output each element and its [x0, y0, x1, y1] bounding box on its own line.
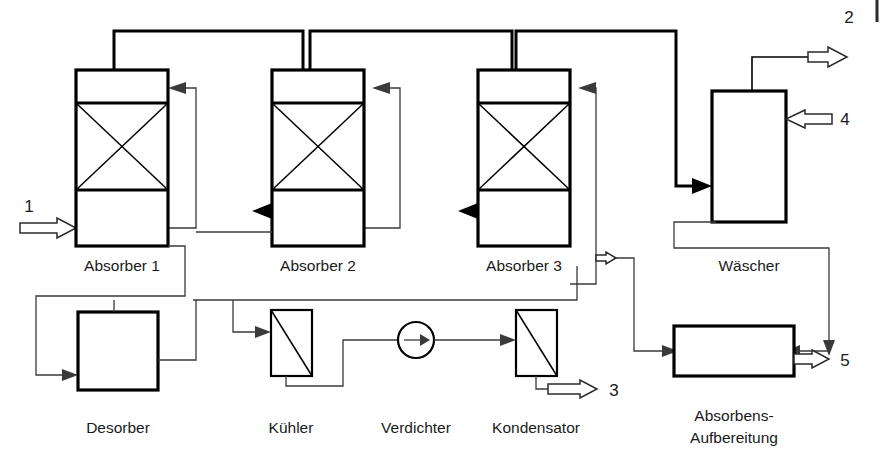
- label-kondensator: Kondensator: [492, 419, 580, 436]
- equipment-verdichter: [398, 322, 434, 358]
- arrowhead-absorber3-head: [578, 82, 596, 94]
- pipe-kuehler-to-verdichter: [286, 340, 398, 386]
- label-verdichter: Verdichter: [381, 419, 451, 436]
- equipment-kondensator: [516, 310, 557, 376]
- stream-number-2: 2: [844, 8, 853, 27]
- equipment-desorber: [78, 312, 158, 390]
- arrowhead-absorber2-head: [372, 82, 390, 94]
- equipment-waescher: [712, 91, 786, 222]
- pipe-absorber1-liquid-loop: [168, 82, 196, 228]
- pipe-kondensator-to-stream3: [536, 376, 597, 398]
- pipe-absorber3-bottom-to-absorbens: [596, 252, 678, 357]
- arrowhead-absorber2-inlet: [252, 203, 272, 219]
- arrowhead-kondensator-inlet: [500, 334, 516, 346]
- equipment-absorber3: [478, 70, 570, 246]
- stream-4-inlet-arrow: [786, 110, 832, 128]
- process-flow-diagram: Absorber 1 Absorber 2 Absorber 3 Wäscher…: [0, 0, 887, 464]
- arrowhead-kuehler-inlet: [255, 326, 271, 338]
- stream-number-1: 1: [24, 197, 33, 216]
- arrowhead-absorber1-head: [168, 82, 186, 94]
- equipment-kuehler: [271, 310, 312, 376]
- label-absorber1: Absorber 1: [84, 257, 160, 274]
- pipe-waescher-top-to-stream2: [752, 47, 847, 91]
- equipment-absorber1: [76, 70, 168, 246]
- stream-tap-arrow-absorber3: [596, 252, 616, 264]
- compressor-direction-arrow: [420, 334, 430, 346]
- arrowhead-absorber3-inlet: [458, 203, 478, 219]
- label-absorbens-line2: Aufbereitung: [690, 429, 778, 446]
- label-kuehler: Kühler: [269, 419, 314, 436]
- stream-number-5: 5: [840, 351, 849, 370]
- pipe-absorber2-liquid-loop: [364, 82, 400, 228]
- stream-2-outlet-arrow: [808, 47, 847, 67]
- flowsheet-canvas: Absorber 1 Absorber 2 Absorber 3 Wäscher…: [0, 0, 887, 464]
- stream-number-4: 4: [840, 110, 849, 129]
- stream-number-3: 3: [609, 381, 618, 400]
- label-absorber2: Absorber 2: [280, 257, 356, 274]
- stream-1-inlet-arrow: [20, 218, 76, 238]
- equipment-absorbens-aufbereitung: [674, 326, 794, 376]
- label-absorber3: Absorber 3: [486, 257, 562, 274]
- pipe-verdichter-to-kondensator: [434, 334, 516, 346]
- arrowhead-desorber-inlet: [62, 369, 78, 381]
- pipe-absorber3-liquid-loop: [570, 82, 596, 284]
- arrowhead-waescher-inlet: [692, 178, 712, 194]
- label-waescher: Wäscher: [718, 257, 779, 274]
- label-desorber: Desorber: [86, 419, 150, 436]
- label-absorbens-line1: Absorbens-: [694, 407, 773, 424]
- equipment-absorber2: [272, 70, 364, 246]
- stream-3-outlet-arrow: [548, 380, 597, 398]
- arrowhead-absorbens-right-inlet: [823, 340, 835, 356]
